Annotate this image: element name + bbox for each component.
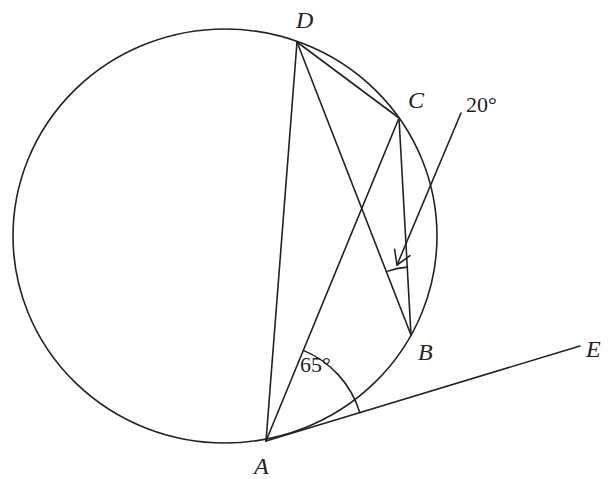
point-label-b: B bbox=[418, 339, 433, 365]
point-label-c: C bbox=[408, 87, 425, 113]
segment-cb bbox=[399, 118, 411, 335]
annotation-arrow-line bbox=[397, 113, 461, 265]
point-label-d: D bbox=[295, 7, 313, 33]
angle-arc-20 bbox=[386, 267, 407, 272]
angle-label-20: 20° bbox=[466, 92, 497, 117]
circle bbox=[13, 29, 437, 443]
segment-ac bbox=[266, 118, 399, 441]
angle-label-65: 65° bbox=[300, 352, 331, 377]
segment-db bbox=[297, 42, 411, 335]
segment-ad bbox=[266, 42, 297, 441]
point-label-a: A bbox=[252, 453, 269, 479]
point-label-e: E bbox=[585, 336, 601, 362]
circle-geometry-diagram: D C B A E 65° 20° bbox=[0, 0, 608, 479]
